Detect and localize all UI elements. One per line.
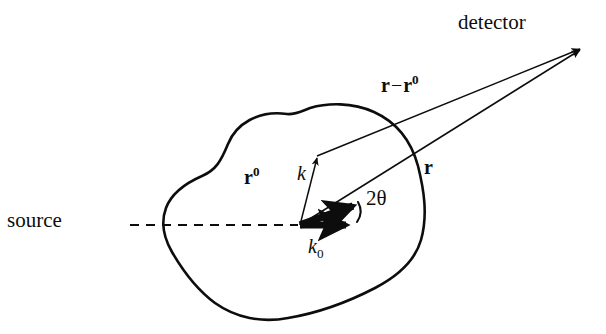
r0-base: r (244, 166, 253, 188)
r-minus-r0-operator: − (390, 74, 403, 96)
vector-r-line (300, 50, 580, 225)
angle-arc-icon (357, 202, 361, 222)
r-minus-r0-first-term: r (381, 74, 390, 96)
detector-label: detector (458, 12, 526, 33)
wavevector-k0-label: k0 (308, 236, 323, 260)
r-minus-r0-second-term: r (403, 74, 412, 96)
wavevector-k-label: k (297, 163, 306, 183)
sample-outline-icon (163, 104, 425, 320)
k0-subscript: 0 (317, 246, 324, 261)
source-label: source (7, 210, 62, 231)
vector-r0-label: r0 (244, 165, 259, 187)
r0-superscript: 0 (253, 164, 260, 179)
k0-base: k (308, 235, 317, 257)
vector-r-label: r (424, 157, 433, 177)
r-minus-r0-superscript: 0 (412, 72, 419, 87)
vector-r-minus-r0-line (317, 49, 580, 156)
figure-canvas: detector source r−r0 r r0 k k0 2θ (0, 0, 606, 334)
vector-r-minus-r0-label: r−r0 (381, 73, 419, 95)
scattering-angle-label: 2θ (366, 188, 387, 209)
